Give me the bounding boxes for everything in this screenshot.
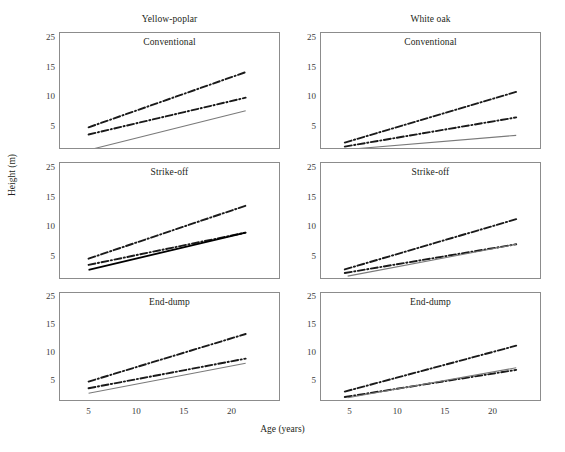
- y-tick-label: 10: [29, 347, 55, 357]
- x-tick-label: 20: [482, 406, 502, 416]
- y-tick-label: 10: [29, 91, 55, 101]
- plot-panel-yellow-poplar-conventional: Conventional: [59, 32, 280, 149]
- y-tick-label: 5: [290, 375, 316, 385]
- series-line-lower-solid-gray: [89, 363, 246, 393]
- plot-panel-white-oak-conventional: Conventional: [320, 32, 541, 149]
- y-tick-label: 10: [290, 91, 316, 101]
- plot-panel-yellow-poplar-end-dump: End-dump: [59, 292, 280, 401]
- y-tick-label: 25: [290, 162, 316, 172]
- series-layer: [60, 33, 279, 148]
- series-layer: [321, 293, 540, 400]
- x-tick-label: 20: [221, 406, 241, 416]
- series-line-middle-dash-dot: [345, 244, 516, 273]
- y-tick-label: 5: [29, 375, 55, 385]
- x-tick-label: 15: [435, 406, 455, 416]
- plot-panel-white-oak-end-dump: End-dump: [320, 292, 541, 401]
- y-tick-label: 10: [29, 221, 55, 231]
- y-tick-label: 10: [290, 221, 316, 231]
- x-axis-title: Age (years): [0, 424, 565, 434]
- y-tick-label: 15: [290, 319, 316, 329]
- series-layer: [321, 33, 540, 148]
- y-tick-label: 5: [29, 251, 55, 261]
- x-tick-label: 10: [126, 406, 146, 416]
- y-axis-title: Height (m): [7, 106, 17, 196]
- x-tick-label: 5: [79, 406, 99, 416]
- plot-panel-yellow-poplar-strike-off: Strike-off: [59, 162, 280, 279]
- y-tick-label: 5: [290, 121, 316, 131]
- series-layer: [60, 163, 279, 278]
- y-tick-label: 25: [290, 291, 316, 301]
- y-tick-label: 25: [29, 291, 55, 301]
- y-tick-label: 15: [29, 62, 55, 72]
- series-line-upper-dash-dot: [345, 346, 516, 392]
- series-layer: [321, 163, 540, 278]
- y-tick-label: 10: [290, 347, 316, 357]
- plot-panel-white-oak-strike-off: Strike-off: [320, 162, 541, 279]
- y-tick-label: 25: [29, 162, 55, 172]
- y-tick-label: 15: [29, 319, 55, 329]
- y-tick-label: 15: [29, 192, 55, 202]
- y-tick-label: 15: [290, 62, 316, 72]
- x-tick-label: 15: [174, 406, 194, 416]
- series-line-upper-dash-dot: [89, 72, 246, 127]
- series-line-upper-dash-dot: [89, 334, 246, 382]
- column-title-yellow-poplar: Yellow-poplar: [59, 14, 280, 24]
- y-tick-label: 5: [290, 251, 316, 261]
- column-title-white-oak: White oak: [320, 14, 541, 24]
- series-line-upper-dash-dot: [345, 92, 516, 143]
- series-line-lower-solid-gray: [348, 368, 517, 398]
- y-tick-label: 25: [29, 32, 55, 42]
- x-tick-label: 10: [387, 406, 407, 416]
- series-layer: [60, 293, 279, 400]
- y-tick-label: 15: [290, 192, 316, 202]
- x-tick-label: 5: [340, 406, 360, 416]
- figure-panel-grid: Yellow-poplar White oak Height (m) Age (…: [0, 0, 565, 452]
- y-tick-label: 5: [29, 121, 55, 131]
- y-tick-label: 25: [290, 32, 316, 42]
- series-line-middle-dash-dot: [89, 359, 246, 389]
- series-line-upper-dash-dot: [345, 219, 516, 269]
